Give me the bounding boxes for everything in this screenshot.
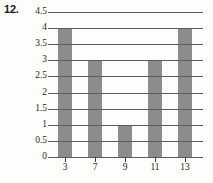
y-axis-tick-label: 0.5 [7, 136, 47, 146]
y-axis-tick-label: 2 [7, 88, 47, 98]
y-axis-tick-label: 0 [7, 152, 47, 162]
y-axis-tick-label: 3.5 [7, 39, 47, 49]
gridline [48, 60, 203, 61]
bar-chart: 4.543.532.521.510.503791113 [0, 0, 213, 183]
x-axis-tick-label: 9 [110, 163, 140, 173]
y-axis-tick-label: 1 [7, 120, 47, 130]
gridline [48, 12, 203, 13]
gridline [48, 44, 203, 45]
x-axis-tick-label: 7 [80, 163, 110, 173]
gridline [48, 109, 203, 110]
x-axis-tick-label: 13 [170, 163, 200, 173]
y-axis-tick-label: 4 [7, 23, 47, 33]
y-axis-tick-label: 4.5 [7, 7, 47, 17]
gridline [48, 125, 203, 126]
y-axis-tick-label: 3 [7, 55, 47, 65]
figure: 12. 4.543.532.521.510.503791113 [0, 0, 213, 183]
gridline [48, 28, 203, 29]
y-axis-tick-label: 1.5 [7, 104, 47, 114]
gridline [48, 93, 203, 94]
gridline [48, 76, 203, 77]
x-axis-tick-label: 11 [140, 163, 170, 173]
x-axis-tick-label: 3 [50, 163, 80, 173]
gridline [48, 141, 203, 142]
y-axis-tick-label: 2.5 [7, 71, 47, 81]
